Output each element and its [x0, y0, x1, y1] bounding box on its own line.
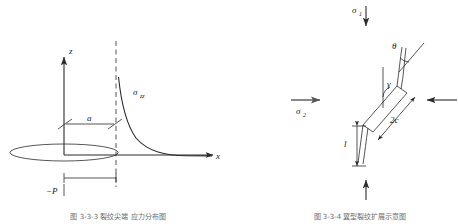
sigma2-subscript: 2 — [303, 112, 306, 118]
load-indicator-group — [64, 173, 116, 196]
sigma2-label-group: σ 2 — [296, 106, 306, 118]
x-axis-label: x — [215, 151, 220, 161]
left-panel-group: z x a σ zz −P 图 3-3-3 裂纹尖端 应力分布图 — [10, 41, 220, 221]
sigma-zz-label-group: σ zz — [133, 87, 145, 99]
lower-wing-crack-inner — [363, 128, 368, 164]
figure-container: z x a σ zz −P 图 3-3-3 裂纹尖端 应力分布图 σ 1 — [0, 0, 458, 224]
scientific-figure-svg: z x a σ zz −P 图 3-3-3 裂纹尖端 应力分布图 σ 1 — [0, 0, 458, 224]
left-panel-caption: 图 3-3-3 裂纹尖端 应力分布图 — [70, 212, 165, 221]
gamma-label: γ — [387, 79, 391, 89]
dimension-a-label: a — [87, 113, 92, 123]
wing-length-label: l — [344, 139, 347, 149]
inclined-crack-band — [363, 86, 407, 132]
sigma1-symbol: σ — [352, 5, 357, 15]
lower-wing-crack-outer — [358, 125, 363, 163]
crack-length-label: 2c — [390, 115, 399, 125]
sigma1-subscript: 1 — [359, 11, 362, 17]
load-label: −P — [46, 186, 58, 196]
theta-reference-ray — [399, 43, 424, 72]
sigma1-label-group: σ 1 — [352, 5, 362, 17]
right-panel-group: σ 1 σ 2 — [291, 5, 457, 221]
sigma-zz-symbol: σ — [133, 87, 138, 97]
sigma2-symbol: σ — [296, 106, 301, 116]
z-axis-label: z — [68, 46, 73, 56]
right-panel-caption: 图 3-3-4 翼型裂纹扩展示意图 — [314, 212, 407, 221]
sigma-zz-subscript: zz — [139, 93, 145, 99]
theta-label: θ — [392, 41, 397, 51]
upper-wing-crack-outer — [397, 47, 402, 86]
